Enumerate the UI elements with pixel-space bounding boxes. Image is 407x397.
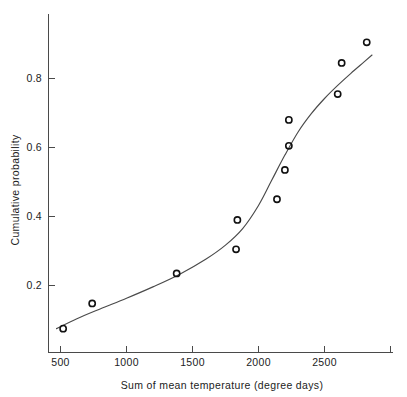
y-axis-title: Cumulative probability bbox=[9, 134, 21, 245]
y-tick-label-06: 0.6 bbox=[27, 141, 43, 153]
chart-page: 0.8 0.6 0.4 0.2 500 1000 1500 2000 2500 … bbox=[0, 0, 407, 397]
x-tick-label-500: 500 bbox=[51, 356, 69, 368]
chart-background bbox=[0, 0, 407, 397]
cumulative-probability-scatter-chart: 0.8 0.6 0.4 0.2 500 1000 1500 2000 2500 … bbox=[0, 0, 407, 397]
y-tick-label-08: 0.8 bbox=[27, 72, 43, 84]
y-tick-label-02: 0.2 bbox=[27, 279, 43, 291]
x-tick-label-2500: 2500 bbox=[312, 356, 337, 368]
x-tick-label-1500: 1500 bbox=[180, 356, 205, 368]
x-axis-title: Sum of mean temperature (degree days) bbox=[121, 379, 324, 391]
x-tick-label-1000: 1000 bbox=[114, 356, 139, 368]
y-tick-label-04: 0.4 bbox=[27, 210, 43, 222]
x-tick-label-2000: 2000 bbox=[246, 356, 271, 368]
